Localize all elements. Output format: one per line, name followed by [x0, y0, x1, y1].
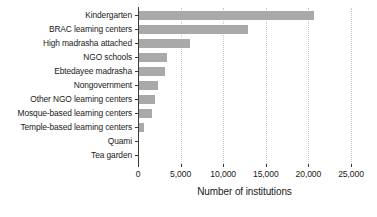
value-tick-label: 15,000 — [253, 168, 279, 180]
category-tick — [135, 141, 139, 142]
category-tick — [135, 99, 139, 100]
category-label: BRAC learning centers — [0, 24, 132, 34]
category-label: Quami — [0, 136, 132, 146]
value-tick — [223, 164, 224, 167]
bar — [138, 67, 165, 76]
value-tick-label: 20,000 — [296, 168, 322, 180]
category-label: Other NGO learning centers — [0, 94, 132, 104]
category-label: Ebtedayee madrasha — [0, 66, 132, 76]
bar — [138, 109, 152, 118]
category-tick — [135, 127, 139, 128]
category-label: NGO schools — [0, 52, 132, 62]
value-tick — [266, 164, 267, 167]
bar — [138, 25, 248, 34]
category-label: Mosque-based learning centers — [0, 108, 132, 118]
gridline — [351, 8, 352, 164]
category-axis-labels: KindergartenBRAC learning centersHigh ma… — [0, 8, 132, 162]
value-tick — [351, 164, 352, 167]
category-tick — [135, 155, 139, 156]
plot-area — [138, 8, 351, 162]
value-tick-label: 10,000 — [210, 168, 236, 180]
category-label: Temple-based learning centers — [0, 122, 132, 132]
category-label: Kindergarten — [0, 10, 132, 20]
category-tick — [135, 57, 139, 58]
x-axis-title: Number of institutions — [138, 185, 351, 198]
value-tick-label: 0 — [136, 168, 141, 180]
category-tick — [135, 85, 139, 86]
category-tick — [135, 29, 139, 30]
category-tick — [135, 113, 139, 114]
category-label: Nongovernment — [0, 80, 132, 90]
bar — [138, 39, 190, 48]
value-tick-label: 5,000 — [170, 168, 191, 180]
bar — [138, 53, 167, 62]
value-tick-label: 25,000 — [338, 168, 364, 180]
category-tick — [135, 15, 139, 16]
category-tick — [135, 43, 139, 44]
category-axis-ticks — [135, 8, 139, 162]
category-label: Tea garden — [0, 150, 132, 160]
bar — [138, 11, 314, 20]
category-label: High madrasha attached — [0, 38, 132, 48]
value-axis-labels: 05,00010,00015,00020,00025,000 — [0, 168, 377, 182]
bar — [138, 95, 155, 104]
bar — [138, 81, 158, 90]
category-tick — [135, 71, 139, 72]
value-tick — [138, 164, 139, 167]
value-tick — [181, 164, 182, 167]
bar-chart: KindergartenBRAC learning centersHigh ma… — [0, 0, 377, 217]
value-tick — [308, 164, 309, 167]
